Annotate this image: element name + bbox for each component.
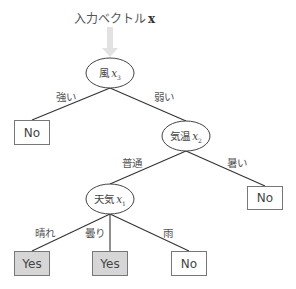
title-vector-symbol: x (148, 12, 155, 26)
node-weather: 天気x1 (94, 191, 126, 207)
node-weather-var: x1 (116, 193, 126, 205)
edge-temp-hot (186, 151, 265, 186)
input-arrow-icon (102, 27, 118, 57)
node-temp: 気温x2 (170, 128, 202, 144)
node-wind-label: 風 (99, 67, 109, 79)
edge-label-weak: 弱い (154, 89, 174, 104)
edge-weather-rain (110, 214, 189, 251)
leaf-yes-cloudy: Yes (92, 251, 128, 276)
leaf-no-hot: No (247, 186, 283, 210)
node-wind-var: x3 (111, 67, 121, 79)
leaf-no-strong-wind: No (14, 120, 50, 145)
node-weather-label: 天気 (94, 193, 114, 205)
edge-label-normal: 普通 (122, 155, 142, 170)
edge-label-hot: 暑い (227, 155, 247, 170)
title-text: 入力ベクトル (74, 12, 146, 26)
edge-label-strong: 強い (56, 89, 76, 104)
node-temp-var: x2 (192, 130, 202, 142)
edge-label-cloudy: 曇り (85, 225, 105, 240)
leaf-yes-sunny: Yes (14, 251, 50, 276)
edge-label-rain: 雨 (163, 225, 173, 240)
leaf-no-rain: No (171, 251, 207, 276)
input-vector-title: 入力ベクトルx (74, 9, 155, 26)
edge-wind-weak (110, 88, 186, 121)
node-temp-label: 気温 (170, 130, 190, 142)
node-wind: 風x3 (99, 65, 121, 81)
edge-label-sunny: 晴れ (35, 225, 55, 240)
